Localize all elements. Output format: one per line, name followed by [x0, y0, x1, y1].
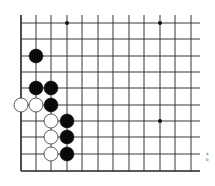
black-stone	[60, 114, 74, 128]
star-point	[158, 21, 162, 25]
black-stone	[44, 81, 58, 95]
white-stone	[44, 114, 58, 128]
white-stone	[44, 147, 58, 161]
black-stone	[29, 81, 43, 95]
side-mark-top: a	[206, 152, 208, 156]
white-stone	[29, 98, 43, 112]
star-point	[158, 119, 162, 123]
black-stone	[29, 49, 43, 63]
black-stone	[44, 98, 58, 112]
star-point	[65, 21, 69, 25]
white-stone	[44, 130, 58, 144]
white-stone	[14, 98, 28, 112]
black-stone	[60, 147, 74, 161]
black-stone	[60, 130, 74, 144]
side-mark-bottom: b	[206, 158, 209, 162]
go-board	[0, 0, 215, 186]
